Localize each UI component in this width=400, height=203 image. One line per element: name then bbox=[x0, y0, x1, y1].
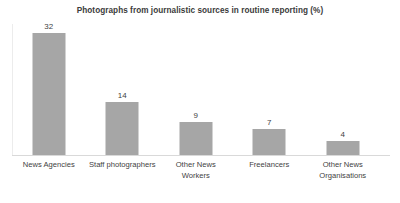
bar-slot: 32 bbox=[12, 22, 86, 156]
bar-value-label: 32 bbox=[44, 22, 53, 32]
bar-value-label: 14 bbox=[118, 91, 127, 101]
bar-value-label: 7 bbox=[267, 118, 271, 128]
bar-slot: 14 bbox=[86, 22, 160, 156]
bar-slot: 7 bbox=[233, 22, 307, 156]
bar-chart: Photographs from journalistic sources in… bbox=[0, 0, 400, 203]
bar-slot: 4 bbox=[306, 22, 380, 156]
x-axis-tick-label: Freelancers bbox=[233, 160, 307, 171]
bar-rect[interactable] bbox=[106, 102, 139, 156]
bar-value-label: 4 bbox=[341, 130, 345, 140]
category-label: Staff photographers bbox=[86, 160, 160, 171]
bar-rect[interactable] bbox=[32, 33, 65, 156]
bar-rect[interactable] bbox=[326, 141, 359, 156]
x-axis-tick-label: News Agencies bbox=[12, 160, 86, 171]
x-axis-tick-label: Other News Organisations bbox=[306, 160, 380, 181]
x-axis-line bbox=[12, 155, 390, 156]
chart-title: Photographs from journalistic sources in… bbox=[0, 5, 400, 16]
category-label: Other News Organisations bbox=[306, 160, 380, 181]
category-label: Other News Workers bbox=[159, 160, 233, 181]
category-label: News Agencies bbox=[12, 160, 86, 171]
category-label: Freelancers bbox=[233, 160, 307, 171]
plot-area: 32 14 9 7 4 bbox=[12, 22, 390, 156]
x-axis-labels: News Agencies Staff photographers Other … bbox=[12, 160, 390, 200]
x-axis-tick-label: Staff photographers bbox=[86, 160, 160, 171]
x-axis-tick-label: Other News Workers bbox=[159, 160, 233, 181]
bar-rect[interactable] bbox=[179, 122, 212, 156]
bar-value-label: 9 bbox=[194, 111, 198, 121]
bar-rect[interactable] bbox=[253, 129, 286, 156]
bar-slot: 9 bbox=[159, 22, 233, 156]
